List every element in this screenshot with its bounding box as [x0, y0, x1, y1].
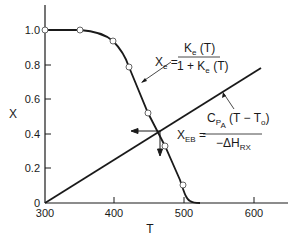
svg-text:−ΔHRX: −ΔHRX	[216, 136, 251, 152]
data-point	[162, 143, 168, 149]
svg-text:1 + Ke (T): 1 + Ke (T)	[177, 59, 228, 75]
data-point	[42, 27, 48, 33]
xeb-equation: XEB = CPA (T − To) −ΔHRX	[177, 111, 269, 152]
svg-text:XEB =: XEB =	[177, 128, 206, 144]
xe-equation: Xe = Ke (T) 1 + Ke (T)	[155, 41, 228, 75]
x-ticks	[114, 197, 254, 203]
arrow-down-icon	[158, 149, 163, 156]
x-axis-label: T	[146, 222, 154, 236]
svg-text:1.0: 1.0	[25, 24, 40, 36]
equilibrium-markers	[42, 27, 186, 188]
svg-text:0.8: 0.8	[25, 59, 40, 71]
svg-text:0.2: 0.2	[25, 162, 40, 174]
arrow-left-icon	[131, 129, 138, 134]
data-point	[110, 38, 116, 44]
data-point	[126, 64, 132, 70]
y-tick-labels: 0 0.2 0.4 0.6 0.8 1.0	[25, 24, 40, 209]
svg-text:0.4: 0.4	[25, 128, 40, 140]
data-point	[77, 27, 83, 33]
x-tick-labels: 300 400 500 600	[36, 207, 263, 219]
y-ticks	[45, 30, 51, 168]
svg-text:400: 400	[105, 207, 123, 219]
svg-text:CPA (T − To): CPA (T − To)	[207, 111, 269, 130]
svg-text:0.6: 0.6	[25, 93, 40, 105]
svg-text:500: 500	[175, 207, 193, 219]
y-axis-label: X	[9, 107, 17, 121]
chart: 0 0.2 0.4 0.6 0.8 1.0 300 400 500 600 T …	[0, 0, 290, 237]
data-point	[180, 182, 186, 188]
svg-text:600: 600	[245, 207, 263, 219]
svg-text:300: 300	[36, 207, 54, 219]
svg-text:Ke (T): Ke (T)	[184, 41, 215, 57]
data-point	[145, 110, 151, 116]
svg-text:Xe =: Xe =	[155, 55, 178, 71]
